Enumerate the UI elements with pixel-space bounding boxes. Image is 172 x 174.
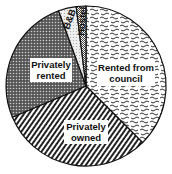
label-owned-1: Privately (66, 121, 106, 132)
label-council-1: Rented from (98, 62, 154, 73)
label-rented-1: Privately (31, 59, 71, 70)
pie-chart: Rented from council Privately owned Priv… (0, 0, 172, 174)
label-rented-2: rented (36, 70, 65, 81)
label-owned-2: owned (71, 132, 101, 143)
label-council-2: council (109, 73, 142, 84)
